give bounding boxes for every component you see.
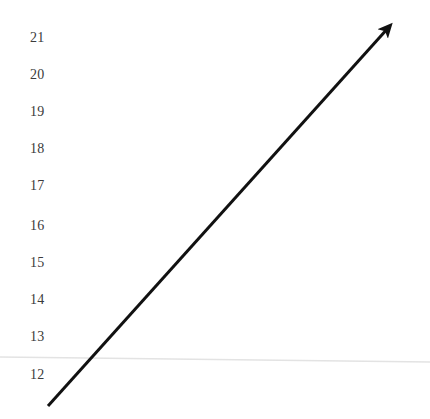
horizontal-gridline: [0, 357, 430, 362]
chart-plot-area: [0, 0, 430, 419]
chart-container: 21 20 19 18 17 16 15 14 13 12: [0, 0, 430, 419]
trend-line-arrow: [48, 26, 390, 406]
